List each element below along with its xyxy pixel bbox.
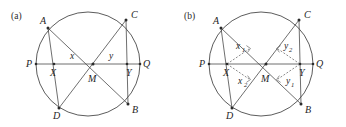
svg-text:x: x: [235, 41, 241, 51]
point-p-node: [35, 63, 38, 66]
label-point-p: P: [25, 58, 32, 69]
point-m-node: [92, 63, 95, 66]
svg-text:x: x: [237, 76, 243, 86]
perpendicular-x1: [227, 49, 249, 64]
label-point-q-b: Q: [316, 58, 324, 69]
label-point-x: X: [49, 67, 57, 78]
svg-text:2: 2: [289, 46, 293, 53]
point-x-node: [53, 63, 56, 66]
point-m-node-b: [265, 63, 268, 66]
chord-cb-b: [299, 20, 301, 104]
label-point-m-b: M: [260, 73, 270, 84]
label-point-q: Q: [143, 58, 151, 69]
label-point-x-b: X: [222, 67, 230, 78]
point-y-node: [126, 63, 129, 66]
panel-b: (b) A C P Q X Y: [184, 9, 324, 121]
label-point-d-b: D: [225, 110, 234, 121]
label-point-b: B: [132, 104, 138, 115]
point-a-node: [47, 27, 50, 30]
label-point-m: M: [87, 73, 97, 84]
chord-ab-b: [221, 28, 301, 104]
svg-text:1: 1: [291, 81, 294, 88]
label-point-p-b: P: [198, 58, 205, 69]
point-x-node-b: [226, 63, 229, 66]
label-segment-y1: y 1: [285, 76, 294, 88]
svg-text:1: 1: [242, 46, 245, 53]
point-b-node: [127, 103, 130, 106]
label-segment-x: x: [69, 51, 75, 61]
label-point-a-b: A: [212, 15, 220, 26]
point-c-node: [125, 19, 128, 22]
label-point-c-b: C: [304, 9, 311, 20]
point-y-node-b: [299, 63, 302, 66]
label-point-y: Y: [126, 67, 133, 78]
label-segment-x1: x 1: [235, 41, 245, 53]
label-point-b-b: B: [305, 104, 311, 115]
panel-a-caption: (a): [11, 11, 22, 22]
label-segment-y: y: [108, 51, 114, 61]
panel-b-caption: (b): [184, 11, 195, 22]
point-b-node-b: [300, 103, 303, 106]
chord-ab-a: [48, 28, 128, 104]
point-q-node-b: [312, 63, 315, 66]
point-p-node-b: [208, 63, 211, 66]
point-a-node-b: [220, 27, 223, 30]
label-point-c: C: [131, 9, 138, 20]
label-point-d: D: [52, 110, 61, 121]
point-c-node-b: [298, 19, 301, 22]
point-q-node: [139, 63, 142, 66]
label-segment-x2: x 2: [237, 76, 248, 88]
label-point-a: A: [39, 15, 47, 26]
panel-a: (a) A C P Q X Y M D B x y: [11, 9, 151, 121]
label-point-y-b: Y: [299, 67, 306, 78]
geometry-figure: (a) A C P Q X Y M D B x y: [0, 0, 346, 127]
label-segment-y2: y 2: [283, 41, 293, 53]
chord-cb-a: [126, 20, 128, 104]
